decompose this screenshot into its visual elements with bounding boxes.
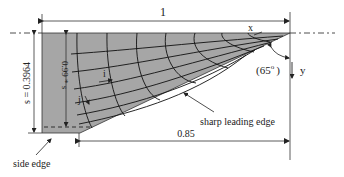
span-label: s = 0.3964 bbox=[21, 62, 32, 104]
sharp-leading-edge-label: sharp leading edge bbox=[200, 116, 276, 127]
chord-length-label: 1 bbox=[160, 5, 166, 19]
sweep-angle-label: (65o) bbox=[256, 63, 280, 77]
i-index-label: i bbox=[103, 68, 106, 79]
side-edge-label: side edge bbox=[13, 158, 51, 169]
angle-close: ) bbox=[276, 64, 280, 77]
leading-edge-pointer bbox=[184, 93, 214, 112]
sweep-angle-arc bbox=[271, 47, 289, 58]
y-axis-label: y bbox=[300, 64, 306, 76]
le-extent-label: 0.85 bbox=[177, 128, 195, 139]
j-index-label: j bbox=[77, 94, 81, 105]
wing-grid-diagram: 1 0.85 s = 0.3964 0.99 * s i j x y (65o)… bbox=[0, 0, 344, 177]
inner-span-label: 0.99 * s bbox=[60, 61, 70, 90]
x-axis-label: x bbox=[248, 22, 253, 33]
angle-value: (65 bbox=[256, 64, 271, 77]
side-edge-pointer bbox=[36, 139, 51, 155]
angle-degree: o bbox=[271, 63, 275, 71]
